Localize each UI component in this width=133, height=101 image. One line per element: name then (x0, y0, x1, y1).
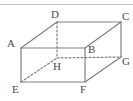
vertex-label-F: F (80, 84, 86, 95)
edge-F-G (85, 57, 121, 82)
geometry-figure: ABCDEFGH (0, 0, 133, 101)
edge-E-H (21, 58, 57, 82)
vertex-label-G: G (122, 56, 130, 67)
vertex-label-C: C (122, 11, 129, 22)
edge-A-D (21, 22, 57, 48)
vertex-label-A: A (7, 38, 15, 49)
vertex-label-B: B (88, 44, 95, 55)
vertex-label-E: E (12, 84, 19, 95)
cuboid-diagram (0, 0, 133, 101)
vertex-label-D: D (51, 9, 59, 20)
vertex-label-H: H (53, 61, 61, 72)
edge-layer (21, 22, 121, 82)
edge-H-G (57, 57, 121, 58)
